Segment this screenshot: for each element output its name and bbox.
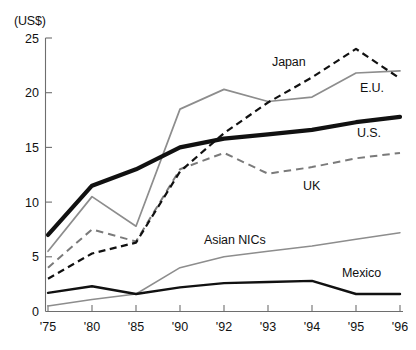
series-labels: Japan E.U. U.S. UK Asian NICs Mexico: [204, 55, 384, 280]
series-label-asian-nics-suffix: s: [259, 233, 265, 247]
series-label-eu: E.U.: [360, 81, 384, 95]
x-tick-label-93: '93: [260, 320, 276, 334]
x-tick-label-94: '94: [304, 320, 320, 334]
series-label-asian-nics-abbr: NIC: [238, 233, 259, 247]
y-tick-label-10: 10: [25, 196, 39, 210]
y-tick-label-15: 15: [25, 141, 39, 155]
x-tick-label-85: '85: [128, 320, 144, 334]
y-tick-label-5: 5: [32, 250, 39, 264]
y-axis-ticks: [46, 38, 53, 257]
series-line-us: [48, 117, 400, 235]
y-axis-tick-labels: 25 20 15 10 5 0: [25, 32, 39, 320]
series-label-asian-nics-head: Asian: [204, 233, 238, 247]
x-tick-label-92: '92: [216, 320, 232, 334]
x-axis-tick-labels: '75 '80 '85 '90 '92 '93 '94 '95 '96: [40, 320, 408, 334]
series-label-mexico: Mexico: [342, 266, 381, 280]
series-label-uk: UK: [303, 179, 321, 193]
series-label-japan: Japan: [272, 55, 306, 69]
x-tick-label-96: '96: [392, 320, 408, 334]
x-tick-label-95: '95: [348, 320, 364, 334]
x-axis-ticks: [48, 305, 400, 312]
series-label-us: U.S.: [357, 126, 381, 140]
series-line-mexico: [48, 281, 400, 294]
x-tick-label-90: '90: [172, 320, 188, 334]
y-tick-label-20: 20: [25, 86, 39, 100]
x-tick-label-80: '80: [84, 320, 100, 334]
y-tick-label-25: 25: [25, 32, 39, 46]
series-label-asian-nics: Asian NICs: [204, 233, 266, 247]
x-tick-label-75: '75: [40, 320, 56, 334]
chart-container: (US$) 25 20 15 10 5 0: [0, 0, 416, 350]
line-chart-plot: 25 20 15 10 5 0 '75 '80 '85 '90 '92 '93: [0, 0, 416, 350]
y-tick-label-0: 0: [32, 305, 39, 319]
